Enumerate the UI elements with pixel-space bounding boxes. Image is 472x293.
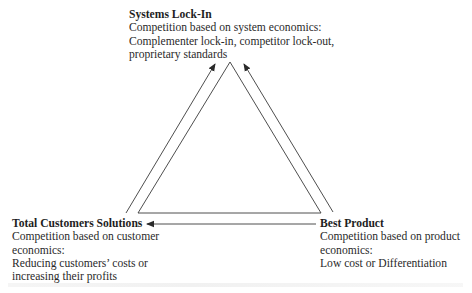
node-title: Systems Lock-In [129,8,334,21]
bleed-through-text [8,283,463,287]
node-title: Total Customers Solutions [12,217,159,230]
node-text: Reducing customers’ costs or [12,257,159,270]
node-total-customer-solutions: Total Customers Solutions Competition ba… [12,217,159,283]
node-text: economics: [12,244,159,257]
node-text: proprietary standards [129,48,334,61]
arrow-right-to-top [244,64,333,212]
node-systems-lock-in: Systems Lock-In Competition based on sys… [129,8,334,61]
node-text: Complementer lock-in, competitor lock-ou… [129,35,334,48]
node-text: Competition based on product [320,230,460,243]
node-title: Best Product [320,217,460,230]
triangle-shape [138,62,321,213]
node-text: Competition based on customer [12,230,159,243]
arrow-left-to-top [126,64,215,213]
node-text: increasing their profits [12,270,159,283]
node-best-product: Best Product Competition based on produc… [320,217,460,270]
node-text: economics: [320,244,460,257]
node-text: Competition based on system economics: [129,21,334,34]
node-text: Low cost or Differentiation [320,257,460,270]
